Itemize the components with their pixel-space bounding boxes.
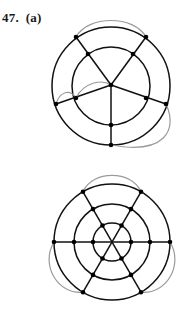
gray-extra-edges bbox=[49, 175, 175, 292]
figure-bottom-graph bbox=[49, 175, 175, 300]
graph-figures bbox=[0, 0, 185, 313]
diameters bbox=[54, 192, 170, 292]
figure-a-top-graph bbox=[52, 21, 170, 148]
